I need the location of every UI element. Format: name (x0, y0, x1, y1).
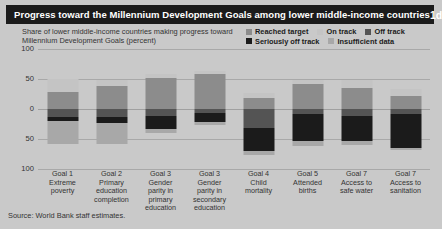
bar-segment (145, 109, 176, 116)
legend-label: Reached target (255, 27, 308, 37)
stacked-bar[interactable] (145, 49, 176, 169)
legend-swatch-icon (246, 29, 252, 35)
legend-label: Off track (374, 27, 404, 37)
legend-item-on-track: On track (317, 27, 356, 37)
bar-segment (243, 128, 274, 151)
legend-label: Seriously off track (255, 37, 319, 47)
plot-area: 10050050100 (38, 49, 430, 169)
page-title: Progress toward the Millennium Developme… (14, 9, 430, 20)
bar-segment (341, 80, 372, 88)
legend-row-1: Reached target On track Off track (246, 27, 436, 37)
x-axis-category-label: Goal 3Genderparity insecondaryeducation (185, 170, 234, 213)
x-axis-category-label: Goal 1Extremepoverty (38, 170, 87, 213)
legend-row-2: Seriously off track Insufficient data (246, 37, 436, 47)
bar-segment (47, 109, 78, 117)
x-axis-label-line: births (283, 187, 332, 196)
bar-segment (145, 116, 176, 129)
x-axis-label-line: education (185, 204, 234, 213)
bar-segment (390, 148, 421, 150)
chart-title-bar: Progress toward the Millennium Developme… (6, 5, 434, 24)
bar-segment (341, 88, 372, 109)
x-axis-category-label: Goal 2Primaryeducationcompletion (87, 170, 136, 213)
stacked-bar[interactable] (96, 49, 127, 169)
bar-segment (96, 86, 127, 109)
x-axis-labels: Goal 1ExtremepovertyGoal 2Primaryeducati… (38, 170, 430, 213)
legend-swatch-icon (365, 29, 371, 35)
legend-item-seriously-off-track: Seriously off track (246, 37, 319, 47)
bar-column[interactable] (38, 49, 87, 169)
legend-swatch-icon (317, 29, 323, 35)
y-axis-tick-label: 100 (21, 44, 34, 53)
legend-item-insufficient-data: Insufficient data (328, 37, 394, 47)
chart-subtitle: Share of lower middle-income countries m… (22, 27, 237, 46)
x-axis-label-line: sanitation (381, 187, 430, 196)
bar-segment (341, 116, 372, 141)
x-axis-label-line: mortality (234, 187, 283, 196)
bar-segment (145, 129, 176, 133)
bar-segment (194, 74, 225, 109)
bar-segment (341, 141, 372, 145)
bar-segment (47, 92, 78, 109)
y-axis-tick-label: 0 (30, 104, 34, 113)
figure-number: 1d (430, 9, 442, 21)
x-axis-category-label: Goal 7Access tosanitation (381, 170, 430, 213)
y-axis-tick-label: 50 (26, 74, 34, 83)
bar-group (38, 49, 430, 169)
stacked-bar[interactable] (390, 49, 421, 169)
bar-column[interactable] (234, 49, 283, 169)
bar-segment (243, 109, 274, 128)
bar-segment (390, 96, 421, 109)
stacked-bar[interactable] (194, 49, 225, 169)
bar-segment (194, 113, 225, 122)
bar-segment (96, 109, 127, 117)
bar-segment (292, 114, 323, 142)
bar-segment (292, 84, 323, 109)
bar-segment (292, 141, 323, 146)
x-axis-category-label: Goal 7Access tosafe water (332, 170, 381, 213)
stacked-bar[interactable] (243, 49, 274, 169)
bar-column[interactable] (185, 49, 234, 169)
bar-segment (47, 121, 78, 144)
bar-segment (145, 78, 176, 109)
legend-label: On track (326, 27, 356, 37)
bar-segment (243, 151, 274, 155)
x-axis-label-line: safe water (332, 187, 381, 196)
x-axis-label-line: completion (87, 196, 136, 205)
legend-label: Insufficient data (337, 37, 394, 47)
x-axis-label-line: education (136, 204, 185, 213)
bar-column[interactable] (332, 49, 381, 169)
chart-legend: Reached target On track Off track Seriou… (246, 27, 436, 46)
bar-segment (341, 109, 372, 116)
y-axis-tick-label: 50 (26, 134, 34, 143)
legend-swatch-icon (246, 38, 252, 44)
bar-segment (390, 114, 421, 148)
source-note: Source: World Bank staff estimates. (8, 211, 125, 220)
legend-item-off-track: Off track (365, 27, 404, 37)
bar-column[interactable] (283, 49, 332, 169)
y-axis-tick-label: 100 (21, 164, 34, 173)
x-axis-label-line: poverty (38, 187, 87, 196)
legend-swatch-icon (328, 38, 334, 44)
stacked-bar[interactable] (292, 49, 323, 169)
bar-segment (390, 89, 421, 96)
stacked-bar[interactable] (341, 49, 372, 169)
x-axis-category-label: Goal 3Genderparity inprimaryeducation (136, 170, 185, 213)
stacked-bar[interactable] (47, 49, 78, 169)
bar-column[interactable] (87, 49, 136, 169)
bar-segment (47, 79, 78, 92)
bar-column[interactable] (136, 49, 185, 169)
bar-segment (243, 98, 274, 109)
bar-segment (96, 123, 127, 145)
x-axis-category-label: Goal 5Attendedbirths (283, 170, 332, 213)
bar-segment (194, 122, 225, 126)
x-axis-category-label: Goal 4Childmortality (234, 170, 283, 213)
legend-item-reached-target: Reached target (246, 27, 308, 37)
bar-column[interactable] (381, 49, 430, 169)
